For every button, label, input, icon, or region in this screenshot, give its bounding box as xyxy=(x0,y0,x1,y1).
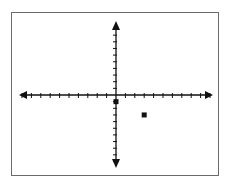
x-axis-right-arrow-icon xyxy=(205,91,213,99)
y-axis-down-arrow-icon xyxy=(112,159,120,168)
y-axis-up-arrow-icon xyxy=(112,21,120,30)
square-point xyxy=(142,112,147,117)
data-points xyxy=(114,99,147,117)
coordinate-plane xyxy=(0,0,231,187)
x-axis-left-arrow-icon xyxy=(19,91,27,99)
dot-point xyxy=(114,99,119,104)
